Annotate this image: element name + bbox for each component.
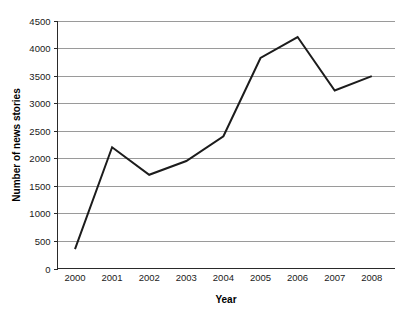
- x-tick-labels-group: 200020012002200320042005200620072008: [64, 272, 382, 283]
- x-tick-label: 2000: [64, 272, 85, 283]
- chart-canvas: 050010001500200025003000350040004500 200…: [0, 0, 408, 319]
- y-tick-label: 3000: [29, 98, 50, 109]
- y-tick-label: 1500: [29, 181, 50, 192]
- x-tick-label: 2005: [250, 272, 271, 283]
- x-tick-label: 2006: [287, 272, 308, 283]
- x-tick-label: 2002: [139, 272, 160, 283]
- y-tick-label: 0: [45, 264, 50, 275]
- y-axis-title: Number of news stories: [11, 88, 22, 202]
- x-tick-label: 2001: [102, 272, 123, 283]
- y-tick-label: 2000: [29, 153, 50, 164]
- chart-background: [0, 0, 408, 319]
- x-tick-label: 2003: [176, 272, 197, 283]
- x-tick-label: 2008: [361, 272, 382, 283]
- y-tick-label: 4500: [29, 16, 50, 27]
- y-tick-label: 3500: [29, 71, 50, 82]
- x-tick-label: 2004: [213, 272, 234, 283]
- line-chart: 050010001500200025003000350040004500 200…: [0, 0, 408, 319]
- y-tick-label: 4000: [29, 43, 50, 54]
- y-tick-label: 500: [35, 236, 51, 247]
- y-tick-label: 2500: [29, 126, 50, 137]
- y-tick-label: 1000: [29, 208, 50, 219]
- x-tick-label: 2007: [324, 272, 345, 283]
- x-axis-title: Year: [215, 294, 236, 305]
